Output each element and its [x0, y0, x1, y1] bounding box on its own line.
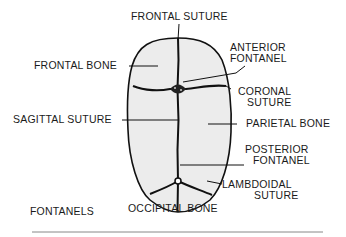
- label-anterior-fontanel-2: FONTANEL: [230, 52, 287, 64]
- diagram-title: FONTANELS: [30, 205, 94, 217]
- sagittal-suture-line: [178, 38, 179, 212]
- posterior-fontanel: [175, 178, 181, 184]
- fontanels-diagram: FRONTAL SUTURE FRONTAL BONE ANTERIOR FON…: [0, 0, 346, 237]
- label-lambdoidal-suture-2: SUTURE: [254, 189, 298, 201]
- label-occipital-bone: OCCIPITAL BONE: [128, 202, 218, 214]
- label-parietal-bone: PARIETAL BONE: [246, 117, 330, 129]
- label-sagittal-suture: SAGITTAL SUTURE: [13, 113, 112, 125]
- label-frontal-suture: FRONTAL SUTURE: [131, 10, 228, 22]
- label-posterior-fontanel-2: FONTANEL: [253, 154, 310, 166]
- anterior-fontanel-leader-end: [236, 66, 245, 73]
- label-frontal-bone: FRONTAL BONE: [34, 59, 117, 71]
- label-coronal-suture-2: SUTURE: [247, 96, 291, 108]
